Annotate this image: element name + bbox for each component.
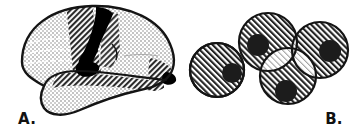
figure-container: A. <box>0 0 361 132</box>
panel-a-label: A. <box>18 110 36 128</box>
nucleus-left <box>222 63 242 83</box>
nucleus-lower <box>275 80 297 102</box>
nucleus-upper-left <box>247 34 269 56</box>
nucleus-upper-right <box>319 40 341 62</box>
panel-b-label: B. <box>325 110 343 128</box>
figure-illustration: A. <box>0 0 361 132</box>
